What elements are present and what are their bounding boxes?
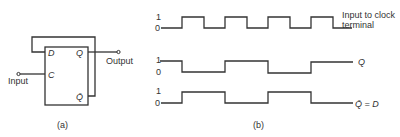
- clock-high-label: 1: [156, 12, 161, 22]
- qbar-label: Q̄ = D: [355, 99, 379, 109]
- clock-label-line2: terminal: [342, 20, 374, 30]
- q-low-label: 0: [156, 67, 161, 77]
- qbar-waveform: [161, 92, 353, 103]
- input-label: Input: [8, 76, 29, 86]
- feedback-wire: [32, 37, 95, 96]
- clock-label-line1: Input to clock: [342, 10, 396, 20]
- pin-qbar-label: Q̄: [76, 92, 83, 102]
- caption-b: (b): [253, 120, 264, 130]
- qbar-low-label: 0: [155, 98, 160, 108]
- pin-d-label: D: [48, 48, 55, 58]
- qbar-high-label: 1: [156, 86, 161, 96]
- output-label: Output: [106, 56, 134, 66]
- output-terminal: [117, 50, 120, 53]
- pin-q-label: Q: [76, 48, 83, 58]
- toggle-flip-flop-figure: D Q C Q̄ Input Output (a) 1 0 Input to c…: [0, 0, 400, 137]
- caption-a: (a): [57, 120, 68, 130]
- d-flip-flop-circuit: D Q C Q̄ Input Output (a): [8, 37, 134, 130]
- q-waveform: [160, 61, 353, 73]
- pin-c-label: C: [48, 70, 55, 80]
- q-high-label: 1: [156, 55, 161, 65]
- clock-low-label: 0: [155, 23, 160, 33]
- q-label: Q: [358, 57, 365, 67]
- timing-diagram: 1 0 Input to clock terminal 1 0 Q 1 0 Q̄…: [155, 10, 396, 130]
- clock-waveform: [161, 17, 352, 28]
